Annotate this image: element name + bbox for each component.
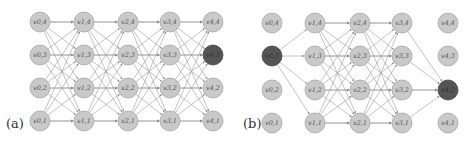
- graph-node: v3,4: [160, 12, 180, 32]
- graph-node: v2,3: [350, 46, 370, 66]
- node-label: v2,3: [353, 52, 367, 60]
- node-label: v2,2: [353, 86, 367, 94]
- graph-node: v0,1: [262, 113, 282, 133]
- graph-node: v1,3: [305, 46, 325, 66]
- graph-node: v0,3: [30, 45, 50, 65]
- node-label: v0,4: [265, 19, 279, 27]
- node-label: v1,1: [308, 119, 322, 127]
- graph-node: v2,1: [350, 113, 370, 133]
- layered-graph-diagram: v0,4v0,3v0,2v0,1v1,4v1,3v1,2v1,1v2,4v2,3…: [0, 0, 470, 142]
- node-label: v4,4: [206, 18, 220, 26]
- graph-edge: [408, 31, 442, 81]
- graph-edge: [410, 96, 439, 117]
- graph-node: v1,2: [74, 78, 94, 98]
- graph-node: v1,3: [74, 45, 94, 65]
- graph-node: v3,1: [160, 111, 180, 131]
- graph-node: v2,4: [350, 13, 370, 33]
- node-label: v4,1: [206, 117, 220, 125]
- node-label: v1,2: [308, 86, 322, 94]
- node-label: v3,2: [163, 84, 177, 92]
- graph-node: v4,4: [438, 13, 458, 33]
- graph-node: v0,1: [30, 111, 50, 131]
- node-label: v2,1: [121, 117, 135, 125]
- node-label: v1,4: [308, 19, 322, 27]
- graph-node: v1,1: [74, 111, 94, 131]
- node-label: v2,4: [121, 18, 135, 26]
- graph-node: v3,1: [392, 113, 412, 133]
- node-label: v4,2: [441, 86, 455, 94]
- graph-node: v3,3: [392, 46, 412, 66]
- node-label: v3,4: [163, 18, 177, 26]
- graph-node: v0,4: [262, 13, 282, 33]
- graph-node: v2,4: [118, 12, 138, 32]
- node-label: v1,1: [77, 117, 91, 125]
- node-label: v0,2: [33, 84, 47, 92]
- node-label: v0,2: [265, 86, 279, 94]
- graph-node: v4,3: [438, 46, 458, 66]
- graph-node: v0,3: [262, 46, 282, 66]
- node-label: v1,4: [77, 18, 91, 26]
- node-label: v3,4: [395, 19, 409, 27]
- graph-node: v2,3: [118, 45, 138, 65]
- graph-node: v0,2: [30, 78, 50, 98]
- node-label: v3,3: [163, 51, 177, 59]
- graph-edge: [280, 62, 307, 83]
- node-label: v4,1: [441, 119, 455, 127]
- graph-node: v0,4: [30, 12, 50, 32]
- graph-node: v2,2: [350, 80, 370, 100]
- graph-node: v3,2: [160, 78, 180, 98]
- node-label: v2,2: [121, 84, 135, 92]
- node-label: v3,1: [163, 117, 177, 125]
- graph-node: v0,2: [262, 80, 282, 100]
- node-label: v2,4: [353, 19, 367, 27]
- graph-node: v4,3: [203, 45, 223, 65]
- node-label: v0,1: [33, 117, 47, 125]
- graph-node: v4,2: [438, 80, 458, 100]
- node-label: v0,1: [265, 119, 279, 127]
- graph-node: v1,4: [305, 13, 325, 33]
- graph-node: v3,2: [392, 80, 412, 100]
- node-label: v0,3: [33, 51, 47, 59]
- edges-layer: [44, 22, 442, 123]
- node-label: v3,2: [395, 86, 409, 94]
- node-label: v4,3: [206, 51, 220, 59]
- node-label: v1,3: [77, 51, 91, 59]
- node-label: v1,2: [77, 84, 91, 92]
- graph-node: v2,1: [118, 111, 138, 131]
- graph-node: v1,4: [74, 12, 94, 32]
- node-label: v0,3: [265, 52, 279, 60]
- graph-node: v3,4: [392, 13, 412, 33]
- node-label: v1,3: [308, 52, 322, 60]
- node-label: v4,3: [441, 52, 455, 60]
- graph-node: v3,3: [160, 45, 180, 65]
- node-label: v2,1: [353, 119, 367, 127]
- node-label: v4,4: [441, 19, 455, 27]
- graph-node: v4,1: [203, 111, 223, 131]
- graph-node: v4,1: [438, 113, 458, 133]
- graph-node: v4,2: [203, 78, 223, 98]
- graph-node: v4,4: [203, 12, 223, 32]
- graph-node: v2,2: [118, 78, 138, 98]
- node-label: v4,2: [206, 84, 220, 92]
- node-label: v0,4: [33, 18, 47, 26]
- graph-node: v1,1: [305, 113, 325, 133]
- graph-edge: [280, 29, 307, 50]
- node-label: v2,3: [121, 51, 135, 59]
- node-label: v3,3: [395, 52, 409, 60]
- graph-node: v1,2: [305, 80, 325, 100]
- graph-edge: [410, 62, 440, 84]
- node-label: v3,1: [395, 119, 409, 127]
